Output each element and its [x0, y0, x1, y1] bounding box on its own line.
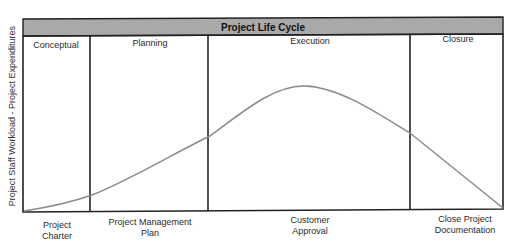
milestone-line1: Customer — [280, 215, 340, 226]
milestone-line2: Plan — [100, 228, 200, 239]
milestone-line1: Close Project — [425, 214, 505, 225]
phase-label-execution: Execution — [270, 36, 350, 47]
milestone-line2: Charter — [25, 231, 89, 242]
milestone-line2: Approval — [280, 226, 340, 237]
workload-curve — [24, 86, 503, 211]
diagram-frame — [23, 34, 503, 212]
phase-label-planning: Planning — [110, 38, 190, 49]
milestone-line1: Project — [25, 220, 89, 231]
milestone-line1: Project Management — [100, 217, 200, 228]
y-axis-label: Project Staff Workload - Project Expendi… — [7, 21, 18, 211]
phase-label-conceptual: Conceptual — [25, 40, 87, 51]
milestone-line2: Documentation — [425, 225, 505, 236]
phase-label-closure: Closure — [418, 34, 498, 45]
